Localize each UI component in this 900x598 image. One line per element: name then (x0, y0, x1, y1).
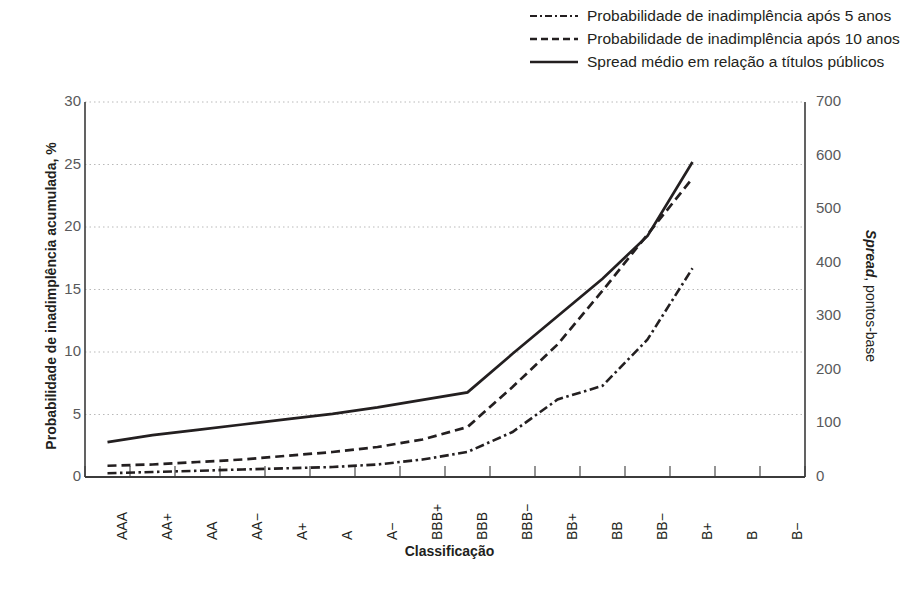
x-tick-label: A (339, 531, 355, 540)
x-tick-label: BB+ (564, 513, 580, 540)
y-tick-label: 10 (41, 342, 81, 359)
y-tick-label: 20 (41, 217, 81, 234)
y-tick-label: 5 (41, 405, 81, 422)
y-tick-label: 300 (816, 306, 856, 323)
series-line-solid (108, 162, 693, 442)
x-axis-ticks (85, 466, 805, 477)
y-tick-label: 200 (816, 360, 856, 377)
series-line-dashed (108, 178, 693, 466)
y-tick-label: 15 (41, 280, 81, 297)
x-tick-label: BBB− (519, 504, 535, 540)
x-tick-label: B (744, 531, 760, 540)
x-tick-label: AAA (114, 512, 130, 540)
x-tick-label: A− (384, 522, 400, 540)
x-tick-label: AA− (249, 513, 265, 540)
x-tick-label: BBB (474, 512, 490, 540)
x-tick-label: AA+ (159, 513, 175, 540)
x-tick-label: B+ (699, 522, 715, 540)
x-tick-label: AA (204, 521, 220, 540)
x-tick-label: BBB+ (429, 504, 445, 540)
y-tick-label: 0 (41, 467, 81, 484)
y-tick-label: 25 (41, 155, 81, 172)
x-tick-label: A+ (294, 522, 310, 540)
y-tick-label: 30 (41, 92, 81, 109)
gridlines (85, 102, 805, 415)
x-tick-label: BB− (654, 513, 670, 540)
x-tick-label: B− (789, 522, 805, 540)
y-tick-label: 500 (816, 199, 856, 216)
x-tick-label: BB (609, 521, 625, 540)
y-tick-label: 0 (816, 467, 856, 484)
y-tick-label: 100 (816, 413, 856, 430)
data-series-group (108, 162, 693, 473)
series-line-dash-dot (108, 268, 693, 473)
y-tick-label: 700 (816, 92, 856, 109)
y-tick-label: 600 (816, 146, 856, 163)
y-tick-label: 400 (816, 253, 856, 270)
